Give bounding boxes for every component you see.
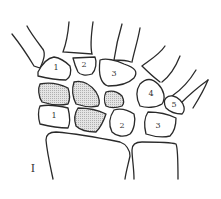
ulna-bone	[132, 142, 178, 179]
label-top-5: 5	[171, 101, 176, 109]
label-top-3: 3	[111, 70, 116, 78]
bone-mid-1	[39, 83, 70, 105]
label-top-1: 1	[53, 64, 58, 72]
figure-label: I	[31, 163, 35, 174]
outer-bone-right	[193, 80, 208, 108]
bone-mid-3	[105, 91, 124, 107]
outer-bone-4b	[162, 56, 180, 82]
outer-bone-4	[142, 46, 165, 82]
radius-bone	[46, 132, 130, 179]
outer-bone-3b	[132, 28, 140, 62]
bone-bottom-2	[75, 108, 106, 132]
label-top-2: 2	[81, 61, 86, 69]
bone-top-3	[99, 59, 135, 86]
label-bottom-1: 1	[51, 112, 56, 120]
label-bottom-3: 3	[155, 122, 160, 130]
outer-bone-left	[12, 26, 44, 68]
label-top-4: 4	[148, 90, 153, 98]
outer-bone-2	[63, 22, 93, 54]
carpal-bones-diagram: 1 2 3 4 5 1 2 3 I	[0, 0, 221, 199]
bone-mid-2	[73, 81, 100, 106]
label-bottom-2: 2	[119, 122, 124, 130]
outer-bone-3	[114, 24, 131, 62]
